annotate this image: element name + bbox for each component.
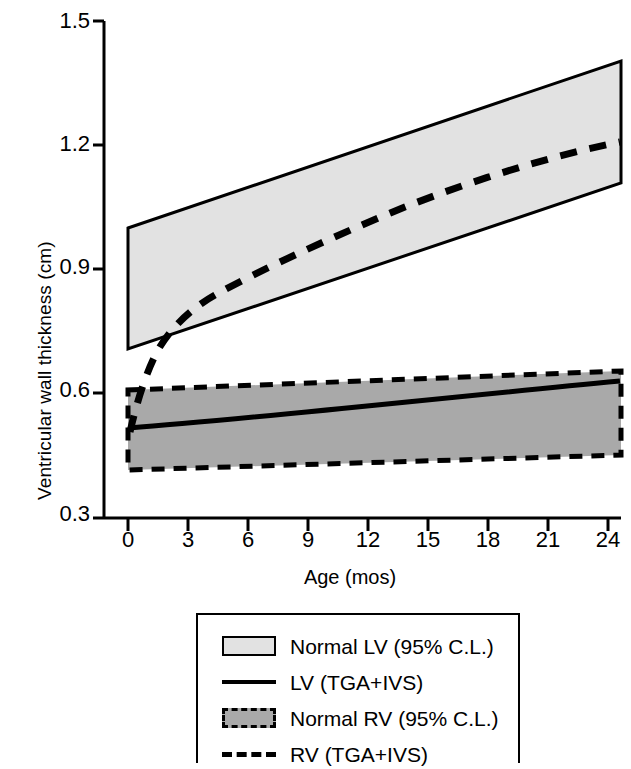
legend-item-normal-rv: Normal RV (95% C.L.) — [198, 703, 518, 733]
legend-swatch-icon — [220, 705, 282, 731]
y-axis-ticks — [93, 21, 104, 518]
x-axis-ticks — [128, 518, 608, 531]
legend-item-lv-tga-ivs: LV (TGA+IVS) — [198, 667, 518, 697]
legend-item-rv-tga-ivs: RV (TGA+IVS) — [198, 739, 518, 769]
legend-label-lv-tga-ivs: LV (TGA+IVS) — [290, 672, 423, 693]
legend-label-normal-lv: Normal LV (95% C.L.) — [290, 636, 494, 657]
legend-line-icon — [220, 741, 282, 767]
legend-swatch-icon — [220, 633, 282, 659]
legend-item-normal-lv: Normal LV (95% C.L.) — [198, 631, 518, 661]
chart-legend: Normal LV (95% C.L.) LV (TGA+IVS) Normal… — [196, 613, 520, 763]
legend-label-rv-tga-ivs: RV (TGA+IVS) — [290, 744, 428, 765]
legend-line-icon — [220, 669, 282, 695]
legend-label-normal-rv: Normal RV (95% C.L.) — [290, 708, 499, 729]
